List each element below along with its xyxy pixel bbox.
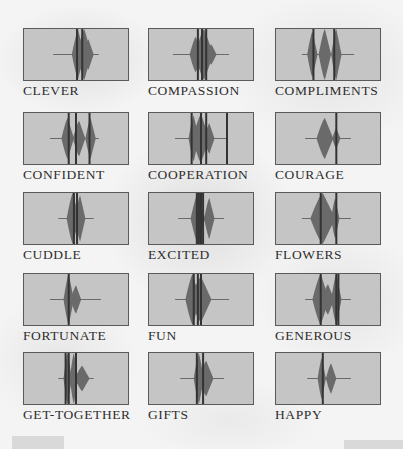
- word-label: COOPERATION: [148, 167, 248, 183]
- waveform-image: [148, 352, 254, 405]
- word-label: FORTUNATE: [23, 328, 106, 344]
- waveform-image: [148, 28, 254, 81]
- waveform-image: [148, 192, 254, 245]
- waveform-image: [148, 273, 254, 326]
- waveform-image: [23, 28, 129, 81]
- word-label: GET-TOGETHER: [23, 407, 131, 423]
- waveform-image: [23, 192, 129, 245]
- waveform-image: [275, 192, 381, 245]
- word-label: GIFTS: [148, 407, 189, 423]
- bottom-right-block: [344, 440, 403, 449]
- word-label: COMPLIMENTS: [275, 83, 378, 99]
- word-label: COURAGE: [275, 167, 344, 183]
- word-label: FLOWERS: [275, 247, 342, 263]
- word-label: CLEVER: [23, 83, 79, 99]
- word-label: CONFIDENT: [23, 167, 105, 183]
- waveform-image: [275, 273, 381, 326]
- word-label: CUDDLE: [23, 247, 81, 263]
- waveform-image: [23, 112, 129, 165]
- waveform-image: [23, 352, 129, 405]
- word-label: COMPASSION: [148, 83, 240, 99]
- waveform-image: [275, 112, 381, 165]
- waveform-image: [275, 28, 381, 81]
- word-label: HAPPY: [275, 407, 322, 423]
- word-label: FUN: [148, 328, 177, 344]
- waveform-image: [148, 112, 254, 165]
- waveform-image: [275, 352, 381, 405]
- word-label: EXCITED: [148, 247, 210, 263]
- word-label: GENEROUS: [275, 328, 352, 344]
- waveform-image: [23, 273, 129, 326]
- bottom-left-block: [12, 436, 64, 449]
